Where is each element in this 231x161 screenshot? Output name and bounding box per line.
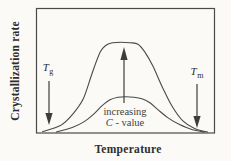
tm-label: Tm — [191, 65, 204, 80]
x-axis-label: Temperature — [94, 143, 161, 155]
annotation-line1: increasing — [103, 106, 146, 117]
tg-subscript: g — [49, 68, 53, 77]
tm-down-arrow-icon — [193, 84, 200, 128]
annotation-line2: C - value — [103, 117, 146, 128]
crystallization-rate-figure: Crystallization rate Temperature Tg Tm i… — [0, 0, 231, 161]
annotation-line2-rest: - value — [113, 117, 145, 128]
tm-symbol: T — [191, 65, 197, 77]
y-axis-label: Crystallization rate — [9, 21, 21, 121]
tm-subscript: m — [197, 72, 203, 81]
increasing-c-arrow-icon — [120, 47, 127, 103]
increasing-c-annotation: increasing C - value — [103, 106, 146, 128]
tg-symbol: T — [43, 61, 49, 73]
tg-down-arrow-icon — [45, 81, 52, 125]
tg-label: Tg — [43, 61, 54, 76]
